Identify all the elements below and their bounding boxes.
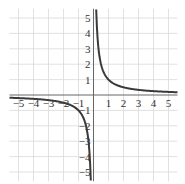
x-tick-label: 4 xyxy=(151,97,157,109)
y-tick-label: 3 xyxy=(85,43,91,55)
x-tick-label: 5 xyxy=(166,97,172,109)
x-tick-label: 2 xyxy=(121,97,127,109)
y-tick-label: 5 xyxy=(85,12,91,24)
axes xyxy=(10,9,178,181)
function-plot: −5−4−3−2−11234554321−1−2−3−4−5 xyxy=(0,0,185,184)
y-tick-label: 2 xyxy=(85,58,91,70)
x-tick-label: 1 xyxy=(106,97,112,109)
y-tick-label: 4 xyxy=(85,27,91,39)
x-tick-label: 3 xyxy=(136,97,142,109)
y-tick-label: −5 xyxy=(79,166,91,178)
y-tick-label: 1 xyxy=(85,74,91,86)
